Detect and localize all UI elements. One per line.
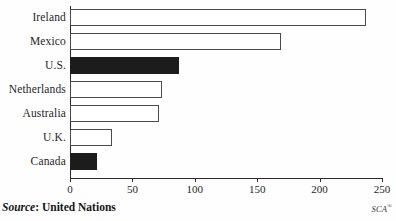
axis-tick-label: 200 — [300, 183, 340, 196]
axis-tick-label: 0 — [50, 183, 90, 196]
bar-row: U.K. — [0, 129, 396, 146]
value-axis-line — [70, 178, 383, 179]
bar-row: Australia — [0, 105, 396, 122]
axis-tick-label: 250 — [362, 183, 396, 196]
bar-row: Canada — [0, 153, 396, 170]
source-separator: : — [35, 201, 42, 213]
axis-tick-label: 50 — [112, 183, 152, 196]
axis-tick — [320, 178, 321, 182]
axis-tick — [257, 178, 258, 182]
bar-row: Netherlands — [0, 81, 396, 98]
category-label: Mexico — [0, 33, 66, 50]
bar-canada — [70, 153, 97, 170]
bar-mexico — [70, 33, 281, 50]
sca-text: SCA — [372, 204, 388, 214]
axis-tick — [70, 178, 71, 182]
category-label: U.K. — [0, 129, 66, 146]
bar-australia — [70, 105, 159, 122]
source-value: United Nations — [42, 201, 116, 213]
bar-netherlands — [70, 81, 162, 98]
bar-ireland — [70, 9, 366, 26]
category-label: Australia — [0, 105, 66, 122]
chart-figure: IrelandMexicoU.S.NetherlandsAustraliaU.K… — [0, 0, 396, 221]
registered-trademark-icon: ® — [387, 203, 392, 209]
axis-tick — [132, 178, 133, 182]
axis-tick-label: 100 — [175, 183, 215, 196]
category-label: U.S. — [0, 57, 66, 74]
category-label: Ireland — [0, 9, 66, 26]
bar-row: U.S. — [0, 57, 396, 74]
source-label: Source — [2, 201, 35, 213]
bar-row: Mexico — [0, 33, 396, 50]
bar-u-s — [70, 57, 179, 74]
bar-row: Ireland — [0, 9, 396, 26]
axis-tick — [382, 178, 383, 182]
sca-watermark: SCA® — [372, 203, 392, 214]
source-note: Source: United Nations — [2, 200, 116, 214]
category-label: Canada — [0, 153, 66, 170]
bar-u-k — [70, 129, 112, 146]
axis-tick — [195, 178, 196, 182]
axis-tick-label: 150 — [237, 183, 277, 196]
category-label: Netherlands — [0, 81, 66, 98]
